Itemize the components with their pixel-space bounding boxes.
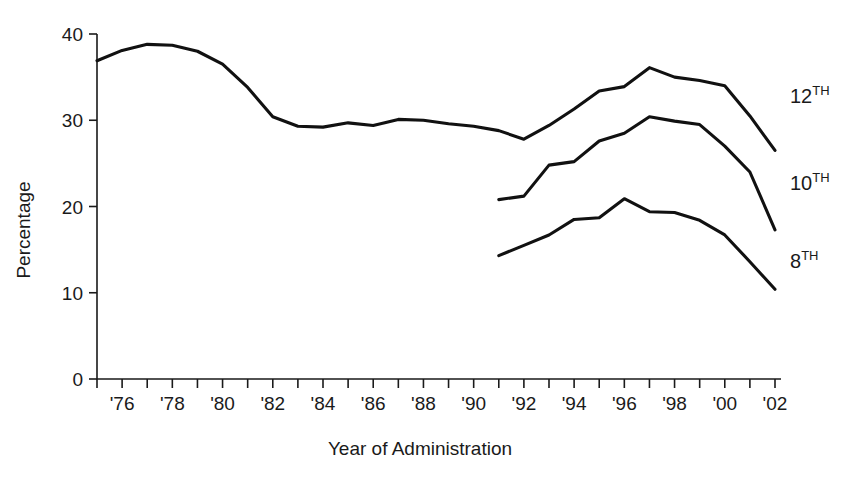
series-labels: 12TH10TH8TH bbox=[790, 83, 830, 272]
series-line-10th bbox=[499, 117, 775, 230]
x-tick-label: '94 bbox=[562, 393, 587, 414]
series-label-12th: 12TH bbox=[790, 83, 830, 107]
x-tick-label: '78 bbox=[160, 393, 185, 414]
x-tick-label: '88 bbox=[411, 393, 436, 414]
line-chart: 010203040 '76'78'80'82'84'86'88'90'92'94… bbox=[0, 0, 841, 479]
x-axis-title: Year of Administration bbox=[328, 438, 512, 459]
x-tick-labels: '76'78'80'82'84'86'88'90'92'94'96'98'00'… bbox=[110, 393, 788, 414]
y-tick-labels: 010203040 bbox=[62, 24, 83, 390]
x-tick-label: '00 bbox=[712, 393, 737, 414]
chart-canvas: 010203040 '76'78'80'82'84'86'88'90'92'94… bbox=[0, 0, 841, 479]
x-tick-label: '82 bbox=[260, 393, 285, 414]
y-axis-title: Percentage bbox=[13, 181, 34, 278]
series-label-8th: 8TH bbox=[790, 248, 818, 272]
series-lines bbox=[97, 44, 775, 289]
y-tick-label: 30 bbox=[62, 110, 83, 131]
x-tick-label: '76 bbox=[110, 393, 135, 414]
y-tick-label: 40 bbox=[62, 24, 83, 45]
x-tick-label: '92 bbox=[512, 393, 537, 414]
x-tick-label: '02 bbox=[763, 393, 788, 414]
y-tick-label: 10 bbox=[62, 283, 83, 304]
series-line-12th bbox=[97, 44, 775, 150]
x-tick-label: '86 bbox=[361, 393, 386, 414]
x-tick-label: '90 bbox=[461, 393, 486, 414]
series-label-10th: 10TH bbox=[790, 170, 830, 194]
y-tick-label: 0 bbox=[72, 369, 83, 390]
x-tick-label: '80 bbox=[210, 393, 235, 414]
series-line-8th bbox=[499, 199, 775, 290]
x-tick-label: '84 bbox=[311, 393, 336, 414]
x-tick-label: '98 bbox=[662, 393, 687, 414]
chart-axes bbox=[89, 34, 781, 388]
y-tick-label: 20 bbox=[62, 197, 83, 218]
x-tick-label: '96 bbox=[612, 393, 637, 414]
